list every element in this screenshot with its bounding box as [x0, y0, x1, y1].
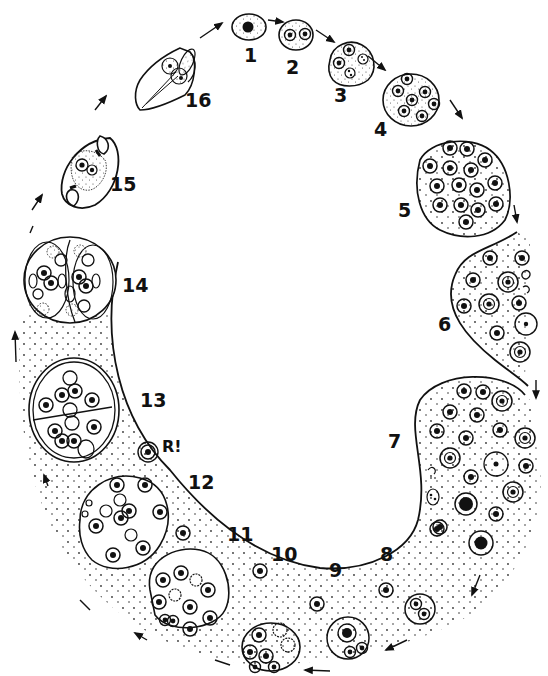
stage-label-6: 6 [438, 315, 451, 334]
stage-label-10: 10 [271, 545, 297, 564]
stage-label-9: 9 [329, 561, 342, 580]
stage-label-1: 1 [244, 46, 257, 65]
stage-label-7: 7 [388, 432, 401, 451]
stage-4-cell [383, 74, 440, 127]
life-cycle-diagram [0, 0, 548, 676]
stage-label-3: 3 [334, 86, 347, 105]
stage-label-14: 14 [122, 276, 148, 295]
cyst-14 [24, 237, 116, 323]
stage-label-5: 5 [398, 201, 411, 220]
spore-15 [62, 136, 119, 208]
annotation-label-r: R! [162, 439, 182, 455]
stage-6-cyst [451, 232, 537, 386]
stage-label-12: 12 [188, 473, 214, 492]
stage-label-2: 2 [286, 58, 299, 77]
stage-2-cell [279, 20, 313, 50]
stage-label-11: 11 [227, 525, 253, 544]
cyst-13 [29, 358, 119, 462]
stage-5-cell [417, 141, 510, 237]
stage-1-cell [232, 14, 266, 40]
stage-label-13: 13 [140, 391, 166, 410]
stage-label-4: 4 [374, 120, 387, 139]
stage-label-15: 15 [110, 175, 136, 194]
stage-label-8: 8 [380, 545, 393, 564]
stage-label-16: 16 [185, 91, 211, 110]
stage-3-cell [329, 42, 374, 86]
